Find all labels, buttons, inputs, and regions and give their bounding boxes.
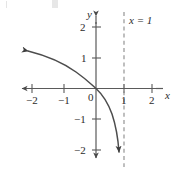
- figure-container: y x 0 −2 −1 1 2 2 1 −1 −2 x = 1: [0, 0, 172, 173]
- x-axis-label: x: [165, 90, 170, 101]
- y-tick-label-neg2: −2: [74, 145, 86, 156]
- y-tick-label-1: 1: [81, 53, 87, 64]
- x-tick-label-neg2: −2: [26, 95, 38, 106]
- function-curve: [28, 51, 119, 152]
- y-axis-label: y: [87, 9, 92, 20]
- x-tick-label-1: 1: [121, 95, 127, 106]
- x-tick-label-2: 2: [149, 95, 155, 106]
- y-tick-label-2: 2: [80, 22, 86, 33]
- x-tick-label-neg1: −1: [58, 95, 70, 106]
- asymptote-label: x = 1: [129, 15, 152, 26]
- y-tick-label-neg1: −1: [74, 114, 86, 125]
- origin-label: 0: [88, 92, 94, 103]
